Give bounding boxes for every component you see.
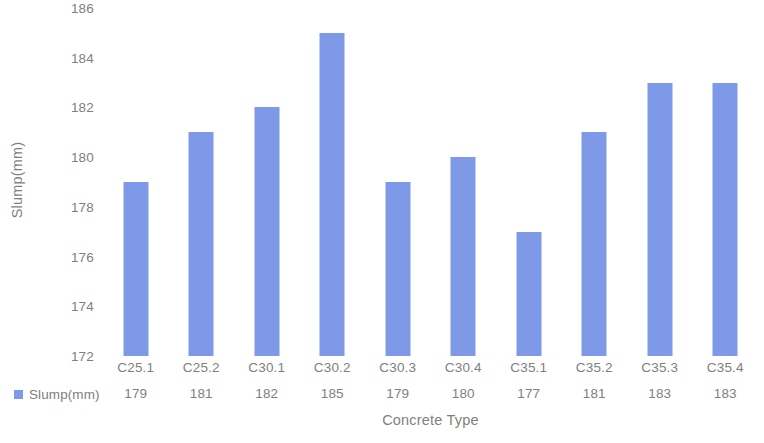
table-category-C25.1: C25.1 (103, 358, 169, 378)
table-category-C35.3: C35.3 (627, 358, 693, 378)
bar-C35.1[interactable] (516, 232, 541, 356)
bar-C30.3[interactable] (385, 182, 410, 356)
table-category-C35.4: C35.4 (693, 358, 759, 378)
bar-C30.1[interactable] (254, 107, 279, 356)
y-axis-tick-182: 182 (71, 100, 94, 115)
table-value-C30.3: 179 (365, 384, 431, 404)
table-category-C35.1: C35.1 (496, 358, 562, 378)
bar-slot (169, 8, 235, 356)
table-value-C30.4: 180 (431, 384, 497, 404)
y-axis-tick-180: 180 (71, 150, 94, 165)
table-value-C25.2: 181 (169, 384, 235, 404)
table-value-C30.2: 185 (300, 384, 366, 404)
table-value-C25.1: 179 (103, 384, 169, 404)
y-axis-title-label: Slump(mm) (9, 142, 25, 219)
y-axis-tick-176: 176 (71, 249, 94, 264)
bar-slot (365, 8, 431, 356)
table-category-C30.3: C30.3 (365, 358, 431, 378)
table-category-C30.1: C30.1 (234, 358, 300, 378)
bars-layer (103, 8, 758, 356)
legend-swatch-icon (14, 390, 23, 399)
bar-slot (103, 8, 169, 356)
y-axis-tick-184: 184 (71, 50, 94, 65)
bar-C35.2[interactable] (582, 132, 607, 356)
legend-entry-slump: Slump(mm) (8, 382, 103, 406)
bar-C25.1[interactable] (123, 182, 148, 356)
bar-C30.4[interactable] (451, 157, 476, 356)
y-axis-tick-186: 186 (71, 1, 94, 16)
slump-bar-chart: Slump(mm) 186184182180178176174172 Slump… (0, 0, 764, 443)
bar-slot (300, 8, 366, 356)
data-table: Slump(mm) C25.1179C25.2181C30.1182C30.21… (0, 356, 764, 408)
bar-slot (627, 8, 693, 356)
y-axis-tick-174: 174 (71, 299, 94, 314)
table-value-C35.3: 183 (627, 384, 693, 404)
x-axis-title: Concrete Type (103, 412, 758, 428)
table-value-C30.1: 182 (234, 384, 300, 404)
y-axis-tick-labels: 186184182180178176174172 (34, 0, 102, 365)
bar-C35.4[interactable] (713, 83, 738, 356)
y-axis-title: Slump(mm) (0, 0, 34, 360)
bar-C30.2[interactable] (320, 33, 345, 356)
plot-area (103, 8, 758, 356)
bar-C25.2[interactable] (189, 132, 214, 356)
table-category-C30.4: C30.4 (431, 358, 497, 378)
bar-C35.3[interactable] (647, 83, 672, 356)
bar-slot (234, 8, 300, 356)
bar-slot (693, 8, 759, 356)
bar-slot (562, 8, 628, 356)
table-category-C25.2: C25.2 (169, 358, 235, 378)
table-category-C30.2: C30.2 (300, 358, 366, 378)
bar-slot (431, 8, 497, 356)
legend-label: Slump(mm) (29, 387, 100, 402)
y-axis-tick-178: 178 (71, 199, 94, 214)
table-value-C35.2: 181 (562, 384, 628, 404)
table-value-C35.4: 183 (693, 384, 759, 404)
table-value-C35.1: 177 (496, 384, 562, 404)
x-axis-title-label: Concrete Type (382, 412, 479, 428)
table-category-C35.2: C35.2 (562, 358, 628, 378)
bar-slot (496, 8, 562, 356)
